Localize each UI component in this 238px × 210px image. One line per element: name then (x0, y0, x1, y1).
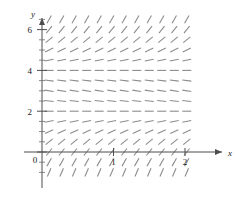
slope-mark (45, 90, 54, 91)
slope-mark (57, 80, 66, 81)
slope-mark (58, 130, 66, 134)
slope-mark (158, 130, 166, 134)
slope-mark (82, 90, 91, 91)
slope-mark (59, 158, 63, 166)
slope-mark (83, 37, 90, 43)
slope-mark (159, 26, 165, 33)
slope-mark (160, 15, 164, 23)
slope-mark (95, 48, 103, 52)
slope-mark (183, 139, 190, 145)
y-axis-label: y (30, 9, 35, 19)
slope-mark (170, 48, 178, 52)
slope-mark (145, 90, 154, 91)
slope-mark (107, 80, 116, 81)
slope-mark (170, 80, 179, 81)
y-axis-tick-label: 6 (28, 25, 33, 35)
slope-mark (171, 139, 178, 145)
origin-tick-label: 0 (33, 155, 38, 165)
slope-mark (120, 59, 129, 61)
slope-mark (147, 168, 151, 176)
slope-mark (132, 121, 141, 123)
slope-mark (182, 121, 191, 123)
slope-mark (47, 168, 51, 176)
slope-mark (121, 37, 128, 43)
slope-mark (58, 37, 65, 43)
slope-mark (46, 26, 52, 33)
slope-mark (82, 59, 91, 61)
slope-mark (170, 130, 178, 134)
slope-mark (120, 100, 129, 101)
slope-mark (107, 90, 116, 91)
slope-mark (132, 100, 141, 101)
slope-mark (71, 37, 78, 43)
slope-mark (110, 168, 114, 176)
slope-mark (182, 90, 191, 91)
slope-mark (160, 168, 164, 176)
slope-mark (46, 139, 53, 145)
y-axis-tick-label: 4 (28, 66, 33, 76)
slope-mark (82, 121, 91, 123)
slope-mark (60, 168, 64, 176)
axis-labels: y x 0 (30, 9, 232, 165)
slope-mark (170, 90, 179, 91)
slope-mark (157, 59, 166, 61)
slope-mark (45, 130, 53, 134)
slope-mark (70, 48, 78, 52)
slope-mark (70, 121, 79, 123)
slope-mark (184, 26, 190, 33)
slope-mark (108, 37, 115, 43)
slope-mark (120, 121, 129, 123)
slope-mark (145, 121, 154, 123)
slope-mark (182, 100, 191, 101)
slope-mark (59, 15, 63, 23)
slope-mark (135, 15, 139, 23)
slope-field-figure: 246 12 y x 0 (0, 0, 238, 210)
slope-mark (95, 59, 104, 61)
slope-mark (120, 48, 128, 52)
slope-mark (96, 37, 103, 43)
slope-mark (172, 15, 176, 23)
slope-mark (45, 48, 53, 52)
slope-mark (57, 59, 66, 61)
slope-mark (72, 15, 76, 23)
x-axis-arrow-icon (215, 149, 222, 155)
slope-mark (145, 100, 154, 101)
slope-mark (108, 48, 116, 52)
slope-mark (132, 80, 141, 81)
slope-mark (146, 37, 153, 43)
x-axis-tick-label: 2 (183, 157, 188, 167)
slope-mark (145, 130, 153, 134)
slope-mark (120, 80, 129, 81)
slope-mark (47, 15, 51, 23)
slope-mark (95, 80, 104, 81)
slope-mark (146, 139, 153, 145)
slope-mark (70, 80, 79, 81)
y-axis-ticks: 246 (28, 19, 48, 172)
slope-mark (95, 130, 103, 134)
slope-mark (170, 100, 179, 101)
slope-mark (57, 90, 66, 91)
slope-mark (109, 15, 113, 23)
slope-mark (70, 59, 79, 61)
slope-mark (58, 48, 66, 52)
slope-mark (45, 121, 54, 123)
slope-mark (82, 80, 91, 81)
axes: 246 12 (24, 18, 222, 188)
slope-mark (185, 15, 189, 23)
slope-mark (70, 90, 79, 91)
slope-mark (145, 48, 153, 52)
slope-mark (57, 121, 66, 123)
y-axis-tick-label: 2 (28, 107, 33, 117)
slope-mark (171, 26, 177, 33)
slope-mark (70, 130, 78, 134)
slope-mark (46, 37, 53, 43)
slope-mark (71, 26, 77, 33)
slope-mark (158, 48, 166, 52)
slope-mark (122, 15, 126, 23)
slope-mark (72, 158, 76, 166)
slope-mark (84, 15, 88, 23)
slope-mark (84, 26, 90, 33)
slope-mark (108, 139, 115, 145)
slope-mark (45, 100, 54, 101)
slope-mark (95, 121, 104, 123)
